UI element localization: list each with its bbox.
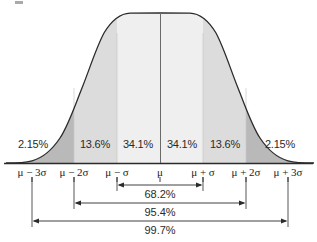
band-label-inner-right-2: 13.6% xyxy=(200,138,250,150)
band-label-inner-left-1: 34.1% xyxy=(113,138,163,150)
span-label-1sigma: 68.2% xyxy=(130,188,190,200)
axis-label-mu: μ xyxy=(146,166,174,178)
normal-distribution-figure: 2.15% 13.6% 34.1% 34.1% 13.6% 2.15% μ − … xyxy=(0,0,317,242)
span-1sigma-arrowhead-right xyxy=(196,183,203,188)
span-3sigma-arrowhead-left xyxy=(33,219,40,224)
span-2sigma-arrowhead-right xyxy=(239,201,246,206)
span-2sigma-arrowhead-left xyxy=(75,201,82,206)
axis-label-plus-3-sigma: μ + 3σ xyxy=(262,166,314,178)
span-label-3sigma: 99.7% xyxy=(130,224,190,236)
span-3sigma-arrowhead-right xyxy=(281,219,288,224)
span-1sigma-arrowhead-left xyxy=(118,183,125,188)
span-label-2sigma: 95.4% xyxy=(130,206,190,218)
scan-artifact xyxy=(15,1,23,4)
axis-label-minus-1-sigma: μ − σ xyxy=(93,166,141,178)
band-label-tail-right: 2.15% xyxy=(255,138,305,150)
band-label-tail-left: 2.15% xyxy=(8,138,58,150)
span-3sigma-group xyxy=(32,177,288,227)
